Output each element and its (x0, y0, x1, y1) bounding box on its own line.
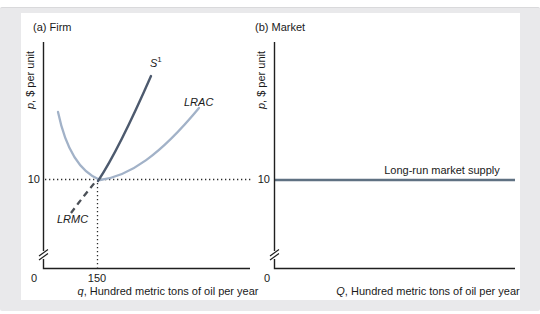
figure: (a) Firm p, $ per unit 10 0 150 q, Hundr… (0, 0, 540, 314)
market-supply-label: Long-run market supply (384, 164, 500, 176)
panel-b-y-variable: p (255, 103, 267, 109)
panel-a-x-units: , Hundred metric tons of oil per year (84, 285, 259, 297)
lrac-curve-label: LRAC (184, 96, 213, 108)
panel-a-y-axis-break (39, 250, 49, 261)
panel-b-x-variable: Q (336, 285, 345, 297)
panel-a-y-units: , $ per unit (24, 51, 36, 103)
lrmc-curve-label: LRMC (57, 213, 88, 225)
panel-a-y-variable: p (24, 103, 36, 109)
figure-lines (0, 0, 540, 314)
panel-a-quantity-tick: 150 (88, 272, 106, 284)
panel-a-origin-tick: 0 (31, 272, 37, 284)
panel-b-x-units: , Hundred metric tons of oil per year (345, 285, 520, 297)
panel-a-x-axis-label: q, Hundred metric tons of oil per year (78, 285, 259, 297)
panel-a-price-tick: 10 (18, 173, 40, 185)
s1-curve-label: S1 (150, 57, 162, 69)
panel-b-axes (275, 42, 516, 269)
panel-b-title: (b) Market (255, 21, 305, 33)
s1-label-superscript: 1 (157, 55, 161, 64)
panel-b-origin-tick: 0 (264, 272, 270, 284)
lrac-curve (58, 108, 199, 180)
panel-a-title: (a) Firm (33, 21, 72, 33)
s1-supply-curve (98, 76, 151, 181)
panel-b-price-tick: 10 (249, 173, 270, 185)
panel-b-y-axis-break (270, 250, 280, 261)
lrmc-dashed-curve (71, 181, 96, 213)
panel-a-y-axis-label: p, $ per unit (24, 51, 36, 109)
panel-b-x-axis-label: Q, Hundred metric tons of oil per year (336, 285, 519, 297)
panel-b-y-units: , $ per unit (255, 51, 267, 103)
panel-b-y-axis-label: p, $ per unit (255, 51, 267, 109)
